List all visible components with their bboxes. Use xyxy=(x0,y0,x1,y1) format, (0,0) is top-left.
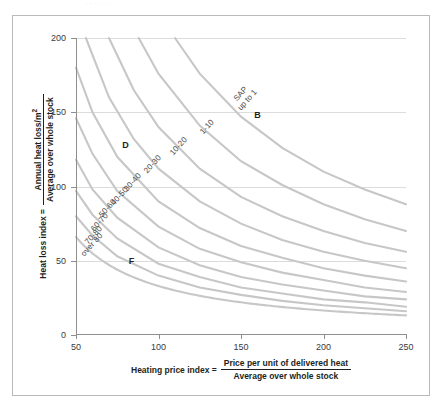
x-tick-label-50: 50 xyxy=(56,343,96,352)
x-axis-title-fraction: Price per unit of delivered heat Average… xyxy=(221,358,351,381)
y-tick-50 xyxy=(71,261,76,262)
curve-70-80 xyxy=(76,216,406,311)
x-tick-label-200: 200 xyxy=(304,343,344,352)
x-axis-title: Heating price index = Price per unit of … xyxy=(76,358,406,381)
y-axis-title-numerator: Annual heat loss/m2 xyxy=(31,94,45,205)
y-axis-title-fraction: Annual heat loss/m2 Average over whole s… xyxy=(31,94,56,205)
curve-10-20 xyxy=(109,38,406,252)
y-axis-title: Heat loss index = Annual heat loss/m2 Av… xyxy=(20,38,66,335)
x-tick-label-100: 100 xyxy=(139,343,179,352)
top-edge-artifact: · · · · · · xyxy=(86,0,144,6)
rating-letter-b: B xyxy=(254,111,261,120)
y-tick-150 xyxy=(71,112,76,113)
x-axis-title-numerator: Price per unit of delivered heat xyxy=(221,358,351,370)
y-tick-100 xyxy=(71,187,76,188)
y-axis-title-numerator-text: Annual heat loss/m xyxy=(32,113,42,191)
plot-area: SAPup to 11-1010-2020-3030-4040-5050-606… xyxy=(76,38,406,335)
chart-page: · · · · · · SAPup to 11-1010-2020-3030-4… xyxy=(0,0,442,409)
x-axis-title-denominator: Average over whole stock xyxy=(221,370,351,381)
rating-letter-d: D xyxy=(122,141,129,150)
y-axis-title-lead: Heat loss index = xyxy=(38,209,48,279)
x-tick-label-150: 150 xyxy=(221,343,261,352)
rating-letter-f: F xyxy=(129,257,135,266)
x-tick-label-250: 250 xyxy=(386,343,426,352)
x-tick-150 xyxy=(241,334,242,339)
y-axis-title-numerator-sup: 2 xyxy=(31,109,38,113)
curve-20-30 xyxy=(86,38,406,268)
x-tick-250 xyxy=(406,334,407,339)
x-axis-title-lead: Heating price index = xyxy=(131,365,217,375)
y-axis-title-denominator: Average over whole stock xyxy=(44,94,55,205)
curve-50-60 xyxy=(76,160,406,300)
x-tick-200 xyxy=(324,334,325,339)
x-tick-100 xyxy=(159,334,160,339)
curve-1-10 xyxy=(139,38,406,231)
x-tick-50 xyxy=(76,334,77,339)
y-axis-line xyxy=(76,38,77,335)
y-tick-200 xyxy=(71,38,76,39)
curve-60-70 xyxy=(76,191,406,307)
